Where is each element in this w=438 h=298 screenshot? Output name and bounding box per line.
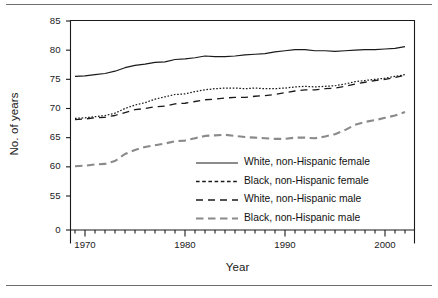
x-tick-label: 1990 bbox=[265, 239, 305, 250]
y-tick-label: 55 bbox=[35, 190, 61, 201]
legend-entry-label: Black, non-Hispanic female bbox=[244, 175, 369, 186]
y-axis-ticks bbox=[66, 21, 71, 230]
y-tick-label: 0 bbox=[35, 224, 61, 235]
y-tick-label: 70 bbox=[35, 102, 61, 113]
x-tick-label: 1970 bbox=[65, 239, 105, 250]
y-axis-title: No. of years bbox=[8, 74, 20, 174]
legend-entry-label: White, non-Hispanic female bbox=[244, 156, 370, 167]
chart-plot-area bbox=[0, 0, 438, 298]
plot-frame bbox=[71, 21, 415, 244]
x-tick-label: 2000 bbox=[365, 239, 405, 250]
data-series-group bbox=[75, 47, 405, 167]
legend-entry-label: Black, non-Hispanic male bbox=[244, 212, 360, 223]
y-tick-label: 60 bbox=[35, 160, 61, 171]
x-tick-label: 1980 bbox=[165, 239, 205, 250]
y-tick-label: 80 bbox=[35, 44, 61, 55]
figure-container: No. of years Year 858075706560550 197019… bbox=[0, 0, 438, 298]
y-tick-label: 85 bbox=[35, 15, 61, 26]
x-axis-ticks bbox=[75, 230, 405, 237]
series-line bbox=[75, 47, 405, 77]
legend-entry-label: White, non-Hispanic male bbox=[244, 193, 361, 204]
series-line bbox=[75, 75, 405, 119]
y-tick-label: 65 bbox=[35, 131, 61, 142]
y-tick-label: 75 bbox=[35, 73, 61, 84]
x-axis-title: Year bbox=[60, 261, 415, 273]
legend-swatches bbox=[196, 163, 238, 219]
